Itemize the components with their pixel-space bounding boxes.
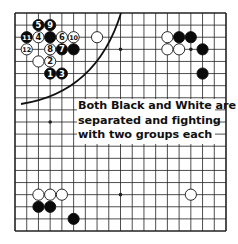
black-stone	[185, 32, 196, 43]
white-stone	[33, 56, 44, 67]
move-number: 3	[59, 69, 65, 79]
black-stone: 9	[45, 20, 56, 31]
move-number: 5	[36, 20, 42, 30]
black-stone	[45, 201, 56, 212]
star-point	[119, 193, 123, 197]
move-number: 9	[47, 20, 53, 30]
black-stone	[68, 213, 79, 224]
white-stone: 8	[45, 44, 56, 55]
white-stone: 12	[21, 44, 32, 55]
white-stone	[185, 189, 196, 200]
white-stone	[162, 44, 173, 55]
caption-box: Both Black and White are separated and f…	[77, 99, 215, 144]
white-stone	[56, 189, 67, 200]
black-stone: 7	[56, 44, 67, 55]
move-number: 2	[47, 56, 53, 66]
white-stone	[162, 32, 173, 43]
white-stone	[45, 189, 56, 200]
black-stone	[45, 32, 56, 43]
black-stone	[174, 32, 185, 43]
move-number: 12	[22, 46, 31, 54]
move-number: 4	[36, 32, 42, 42]
star-point	[119, 48, 123, 52]
move-number: 7	[59, 44, 65, 54]
move-number: 11	[22, 34, 31, 42]
star-point	[189, 48, 193, 52]
white-stone: 2	[45, 56, 56, 67]
caption-line-1: Both Black and White are	[78, 99, 215, 114]
black-stone	[197, 68, 208, 79]
move-number: 8	[47, 44, 53, 54]
star-point	[48, 120, 52, 124]
black-stone: 3	[56, 68, 67, 79]
move-number: 6	[59, 32, 65, 42]
white-stone	[174, 44, 185, 55]
move-number: 1	[47, 69, 53, 79]
white-stone	[33, 189, 44, 200]
caption-line-3: with two groups each	[78, 128, 215, 143]
black-stone: 5	[33, 20, 44, 31]
white-stone: 10	[68, 32, 79, 43]
white-stone	[91, 32, 102, 43]
white-stone: 6	[56, 32, 67, 43]
caption-line-2: separated and fighting	[78, 114, 215, 129]
black-stone: 1	[45, 68, 56, 79]
white-stone: 4	[33, 32, 44, 43]
black-stone	[33, 201, 44, 212]
black-stone: 11	[21, 32, 32, 43]
move-number: 10	[69, 34, 78, 42]
black-stone	[197, 44, 208, 55]
black-stone	[68, 44, 79, 55]
